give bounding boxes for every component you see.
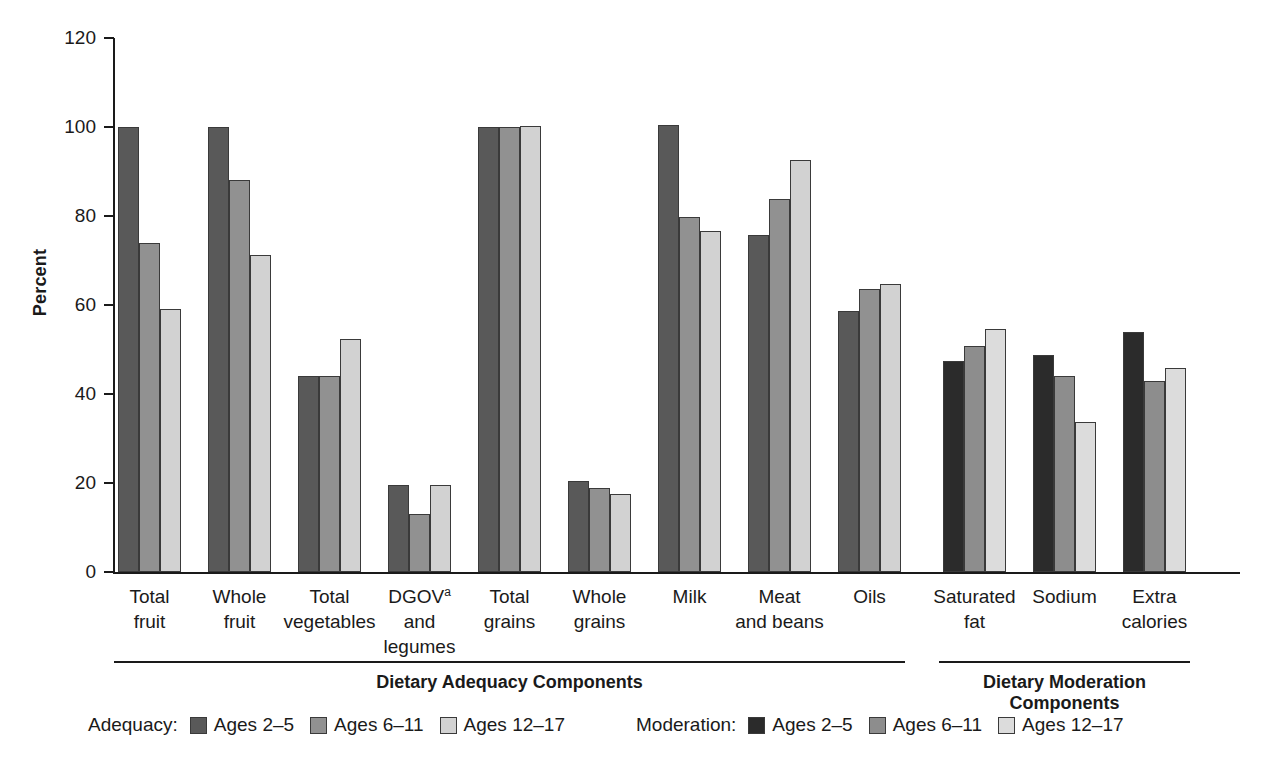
legend-adequacy-item-label: Ages 6–11: [334, 714, 423, 736]
bar: [1123, 332, 1144, 572]
legend-adequacy-item[interactable]: Ages 2–5: [190, 714, 294, 736]
category-label-line: legumes: [360, 634, 480, 659]
section-title: Dietary Moderation Components: [939, 672, 1190, 714]
category-label: Oils: [810, 584, 930, 609]
bar: [229, 180, 250, 572]
legend-swatch-icon: [440, 717, 457, 734]
legend-adequacy-item-label: Ages 2–5: [214, 714, 294, 736]
bar: [340, 339, 361, 572]
bar: [964, 346, 985, 572]
bar: [985, 329, 1006, 572]
category-label-line: Oils: [810, 584, 930, 609]
bar: [790, 160, 811, 572]
bar: [880, 284, 901, 572]
category-label-line: Extra: [1095, 584, 1215, 609]
section-title: Dietary Adequacy Components: [114, 672, 905, 693]
bar: [409, 514, 430, 572]
x-axis-line: [113, 572, 1240, 574]
legend-swatch-icon: [869, 717, 886, 734]
bar: [838, 311, 859, 572]
category-label-line: and beans: [720, 609, 840, 634]
bar: [250, 255, 271, 572]
bar: [319, 376, 340, 572]
bars-layer: [0, 0, 1276, 572]
bar: [520, 126, 541, 572]
legend-moderation-item-label: Ages 2–5: [772, 714, 852, 736]
section-rule: [114, 661, 905, 663]
category-label-line: grains: [540, 609, 660, 634]
legend-swatch-icon: [998, 717, 1015, 734]
category-label-line: fat: [915, 609, 1035, 634]
legend-moderation-item[interactable]: Ages 12–17: [998, 714, 1123, 736]
category-label: Extracalories: [1095, 584, 1215, 634]
legend-adequacy: Adequacy: Ages 2–5Ages 6–11Ages 12–17: [88, 714, 581, 736]
legend-moderation: Moderation: Ages 2–5Ages 6–11Ages 12–17: [636, 714, 1140, 736]
bar: [589, 488, 610, 572]
bar: [208, 127, 229, 572]
legend-adequacy-item-label: Ages 12–17: [464, 714, 565, 736]
legend-moderation-item[interactable]: Ages 6–11: [869, 714, 982, 736]
legend-adequacy-item[interactable]: Ages 6–11: [310, 714, 423, 736]
legend: Adequacy: Ages 2–5Ages 6–11Ages 12–17 Mo…: [0, 714, 1276, 748]
bar: [298, 376, 319, 572]
bar: [478, 127, 499, 572]
bar: [658, 125, 679, 572]
bar: [769, 199, 790, 572]
bar: [568, 481, 589, 572]
bar: [499, 127, 520, 572]
grouped-bar-chart: Percent 120100806040200 TotalfruitWholef…: [0, 0, 1276, 770]
bar: [139, 243, 160, 572]
bar: [943, 361, 964, 572]
bar: [679, 217, 700, 572]
category-label-line: calories: [1095, 609, 1215, 634]
bar: [1144, 381, 1165, 572]
bar: [1054, 376, 1075, 572]
bar: [1033, 355, 1054, 572]
bar: [160, 309, 181, 572]
bar: [388, 485, 409, 572]
bar: [748, 235, 769, 572]
legend-adequacy-label: Adequacy:: [88, 714, 178, 736]
bar: [1165, 368, 1186, 572]
legend-swatch-icon: [748, 717, 765, 734]
legend-moderation-item-label: Ages 6–11: [893, 714, 982, 736]
legend-moderation-item[interactable]: Ages 2–5: [748, 714, 852, 736]
bar: [1075, 422, 1096, 572]
legend-swatch-icon: [310, 717, 327, 734]
bar: [118, 127, 139, 572]
legend-adequacy-item[interactable]: Ages 12–17: [440, 714, 565, 736]
legend-moderation-item-label: Ages 12–17: [1022, 714, 1123, 736]
section-rule: [939, 661, 1190, 663]
bar: [700, 231, 721, 572]
bar: [430, 485, 451, 572]
legend-moderation-label: Moderation:: [636, 714, 736, 736]
legend-swatch-icon: [190, 717, 207, 734]
bar: [610, 494, 631, 572]
bar: [859, 289, 880, 572]
